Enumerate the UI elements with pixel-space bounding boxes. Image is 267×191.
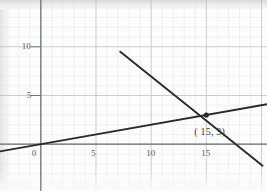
y-axis-tick-label-5: 5 [27,91,32,100]
y-axis-tick-label-10: 10 [22,42,31,51]
graph-canvas: 051015510 ( 15, 3) [0,0,267,191]
x-axis-tick-label-5: 5 [91,149,96,158]
x-axis-tick-label-10: 10 [146,149,155,158]
x-axis-tick-label-0: 0 [32,149,37,158]
intersection-point-label: ( 15, 3) [194,127,225,137]
line-shallow-ascending [0,104,267,151]
x-axis-tick-label-15: 15 [201,149,210,158]
intersection-point-marker [204,112,209,117]
plot-layer [0,0,267,191]
